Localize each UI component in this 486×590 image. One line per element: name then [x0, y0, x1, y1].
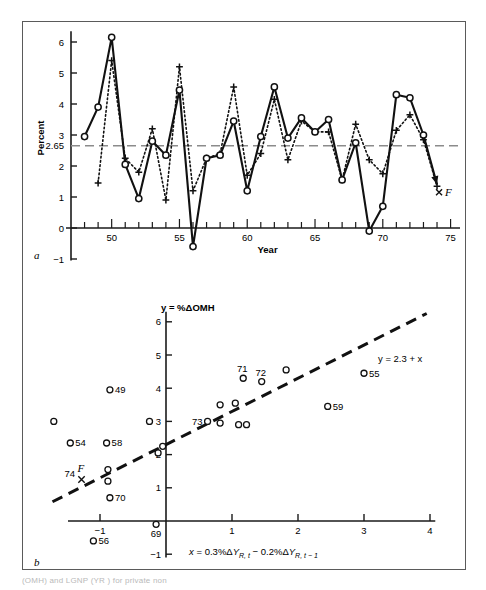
panel-b-point — [107, 387, 113, 393]
panel-b-y-tick-label: 1 — [156, 482, 161, 493]
panel-a-actual-marker — [339, 177, 345, 183]
panel-b-point-label: 72 — [255, 367, 266, 378]
panel-a-y-tick-label: 4 — [59, 99, 64, 110]
panel-a-y-tick-label: 2.65 — [46, 140, 65, 151]
panel-b-point — [217, 420, 223, 426]
panel-a-fitted-marker — [135, 169, 142, 176]
panel-b-x-axis-title: x = 0.3%ΔYR, t − 0.2%ΔYR, t − 1 — [188, 546, 318, 559]
panel-a-y-tick-label: 6 — [59, 37, 64, 48]
panel-a-actual-marker — [407, 95, 413, 101]
panel-b-y-tick-label: 4 — [156, 383, 161, 394]
panel-b-point — [361, 370, 367, 376]
panel-a-actual-marker — [109, 34, 115, 40]
panel-a-actual-marker — [149, 138, 155, 144]
panel-b-forecast-year-label: 74 — [65, 468, 76, 479]
panel-a-actual-marker — [420, 132, 426, 138]
panel-b-y-tick-label: 5 — [156, 350, 161, 361]
panel-a-actual-marker — [285, 135, 291, 141]
panel-b-y-tick-label: −1 — [150, 549, 161, 560]
panel-a-forecast-label: F — [444, 186, 452, 198]
panel-a-fitted-marker — [230, 84, 237, 91]
panel-a-actual-marker — [122, 161, 128, 167]
panel-b-point — [217, 402, 223, 408]
panel-b-point-label: 59 — [333, 401, 344, 412]
panel-b-point — [325, 403, 331, 409]
panel-b-point — [107, 495, 113, 501]
panel-a-actual-marker — [136, 195, 142, 201]
panel-b-y-axis-title: y = %ΔOMH — [161, 302, 215, 313]
panel-a-fitted-marker — [285, 156, 292, 163]
panel-a-actual-marker — [258, 133, 264, 139]
panel-a-series-actual-line — [85, 37, 437, 246]
panel-a-actual-marker — [81, 133, 87, 139]
panel-b-y-tick-label: 6 — [156, 316, 161, 327]
panel-a-fitted-marker — [190, 187, 197, 194]
panel-b-point — [205, 418, 211, 424]
panel-a-y-tick-label: −1 — [53, 254, 64, 265]
panel-a-x-tick-label: 60 — [242, 232, 253, 243]
panel-a-actual-marker — [380, 203, 386, 209]
panel-a-actual-marker — [366, 228, 372, 234]
panel-b-forecast-x-marker — [78, 476, 84, 482]
panel-b-point — [232, 400, 238, 406]
panel-b-point — [67, 440, 73, 446]
panel-b-point — [236, 422, 242, 428]
panel-b-point-label: 58 — [112, 437, 123, 448]
panel-b-x-tick-label: 2 — [295, 525, 300, 536]
panel-b-point — [105, 467, 111, 473]
panel-b-fit-equation: y = 2.3 + x — [378, 353, 423, 364]
panel-a-fitted-marker — [352, 121, 359, 128]
panel-a-x-tick-label: 50 — [106, 232, 117, 243]
panel-a-actual-marker — [325, 116, 331, 122]
panel-b-point — [104, 440, 110, 446]
panel-b-letter: b — [34, 556, 40, 568]
panel-a-actual-marker — [203, 155, 209, 161]
panel-b-point-label: 56 — [98, 535, 109, 546]
panel-b-y-tick-label: 3 — [156, 416, 161, 427]
panel-a-letter: a — [34, 249, 40, 261]
panel-a-y-tick-label: 3 — [59, 130, 64, 141]
panel-a-fitted-marker — [162, 197, 169, 204]
panel-b-point-label: 70 — [115, 492, 126, 503]
panel-a-actual-marker — [163, 152, 169, 158]
panel-a-actual-marker — [176, 87, 182, 93]
panel-a-actual-marker — [298, 115, 304, 121]
panel-a-x-tick-label: 70 — [378, 232, 389, 243]
panel-a-y-tick-label: 1 — [59, 192, 64, 203]
panel-a-actual-marker — [231, 118, 237, 124]
panel-a-actual-marker — [190, 244, 196, 250]
panel-b-point — [51, 418, 57, 424]
panel-a-fitted-marker — [95, 180, 102, 187]
figure-caption: (OMH) and LGNP (YR ) for private non — [22, 576, 466, 590]
panel-b-point — [147, 418, 153, 424]
panel-a-forecast-x-marker — [436, 189, 442, 195]
panel-b-point-label: 54 — [75, 437, 86, 448]
panel-b-point — [160, 443, 166, 449]
panel-a-chart: −10122.653456505560657075YearPercentFa — [0, 0, 486, 300]
panel-a-y-tick-label: 2 — [59, 161, 64, 172]
panel-b-point — [259, 379, 265, 385]
panel-a-x-axis-title: Year — [258, 244, 278, 255]
panel-a-x-tick-label: 75 — [445, 232, 456, 243]
figure-root: −10122.653456505560657075YearPercentFa 6… — [0, 0, 486, 590]
panel-b-regression-line — [52, 314, 426, 502]
panel-a-fitted-marker — [393, 127, 400, 134]
panel-a-actual-marker — [95, 104, 101, 110]
panel-a-actual-marker — [393, 92, 399, 98]
panel-b-forecast-f-label: F — [77, 462, 85, 474]
panel-b-point — [153, 521, 159, 527]
panel-b-x-tick-label: 4 — [427, 525, 432, 536]
panel-b-point — [155, 450, 161, 456]
panel-b-plot: 654321−1−11234495458705669737172555974Fy… — [34, 302, 435, 568]
panel-b-point-label: 69 — [151, 528, 162, 539]
panel-a-actual-marker — [271, 84, 277, 90]
panel-b-point-label: 49 — [115, 384, 126, 395]
panel-a-actual-marker — [244, 188, 250, 194]
panel-a-y-tick-label: 0 — [59, 223, 64, 234]
panel-a-fitted-marker — [257, 150, 264, 157]
panel-b-point — [90, 538, 96, 544]
panel-b-point-label: 73 — [192, 416, 203, 427]
panel-b-point-label: 55 — [369, 368, 380, 379]
panel-a-y-axis-title: Percent — [35, 120, 46, 156]
panel-b-point-label: 71 — [237, 363, 248, 374]
